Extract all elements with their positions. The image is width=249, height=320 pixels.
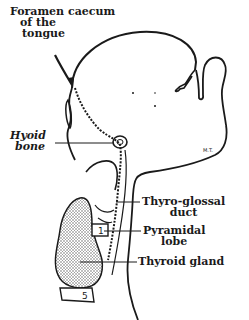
head-outline [72,32,196,88]
duct-inner-line [112,150,126,275]
dot-feature [154,92,156,94]
label-line: tongue [10,28,115,39]
soft-palate-outline [196,58,226,126]
label-pyramidal-lobe: Pyramidal lobe [143,225,205,247]
label-line: Thyroid gland [138,256,224,267]
dot-feature [154,105,156,107]
label-line: duct [142,207,225,218]
thyroglossal-duct-diagram: 1 5 M.T. [0,0,249,320]
cartilage-block-5 [60,288,94,302]
nasal-palate-outline [175,70,195,91]
label-line: lobe [143,236,205,247]
hyoid-bone-shape [113,136,127,148]
dot-feature [132,92,134,94]
label-foramen-caecum: Foramen caecum of the tongue [10,6,115,39]
foramen-caecum-arrowhead [68,77,74,88]
epiglottis-outline [86,161,117,190]
larynx-lines [95,205,114,223]
label-thyro-glossal-duct: Thyro-glossal duct [142,196,225,218]
cartilage-number-1: 1 [98,226,104,236]
artist-signature: M.T. [203,147,213,153]
thyroid-gland-shape [55,198,102,288]
label-thyroid-gland: Thyroid gland [138,256,224,267]
cartilage-number-5: 5 [82,291,88,301]
label-hyoid-bone: Hyoid bone [10,130,46,152]
pharynx-posterior-outline [127,125,226,320]
label-line: bone [10,141,46,152]
